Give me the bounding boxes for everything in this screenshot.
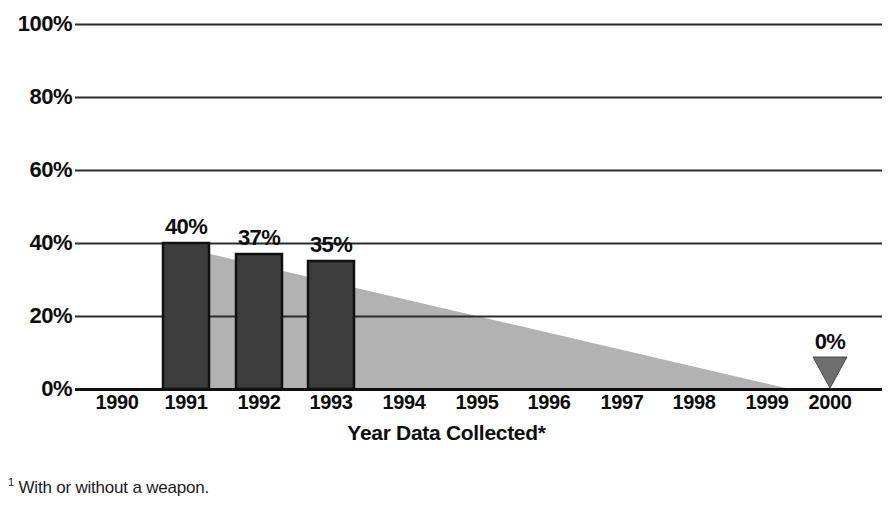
ytick-label-60: 60% <box>0 159 72 181</box>
target-marker-triangle-2000 <box>813 357 847 388</box>
xtick-label-1996: 1996 <box>510 392 588 412</box>
xtick-label-1990: 1990 <box>78 392 156 412</box>
xtick-label-1994: 1994 <box>365 392 443 412</box>
footnote: 1 With or without a weapon. <box>8 478 209 498</box>
bar-1991 <box>163 243 209 389</box>
ytick-label-100: 100% <box>0 13 72 35</box>
bar-value-label-1992: 37% <box>219 227 299 249</box>
ytick-label-0: 0% <box>0 378 72 400</box>
bar-value-label-1991: 40% <box>146 216 226 238</box>
ytick-label-80: 80% <box>0 86 72 108</box>
bar-1992 <box>236 254 282 389</box>
xtick-label-2000: 2000 <box>791 392 869 412</box>
xtick-label-1991: 1991 <box>147 392 225 412</box>
footnote-text: With or without a weapon. <box>18 478 209 497</box>
marker-value-label-2000: 0% <box>790 331 870 353</box>
xtick-label-1995: 1995 <box>438 392 516 412</box>
xtick-label-1998: 1998 <box>655 392 733 412</box>
chart-figure: 100% 80% 60% 40% 20% 0% 1990 1991 1992 1… <box>0 0 893 511</box>
xtick-label-1997: 1997 <box>583 392 661 412</box>
x-axis-title: Year Data Collected* <box>0 421 893 445</box>
ytick-label-20: 20% <box>0 305 72 327</box>
footnote-marker: 1 <box>8 476 14 488</box>
ytick-label-40: 40% <box>0 232 72 254</box>
xtick-label-1993: 1993 <box>292 392 370 412</box>
bar-1993 <box>308 261 354 389</box>
bar-value-label-1993: 35% <box>291 234 371 256</box>
xtick-label-1992: 1992 <box>220 392 298 412</box>
